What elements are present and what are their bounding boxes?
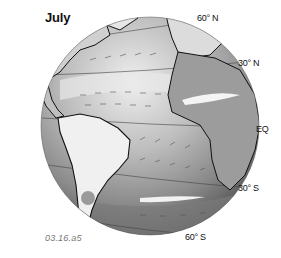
label-30n: 30° N [238,58,259,68]
label-60s: 60° S [185,232,206,242]
globe-map [0,0,281,258]
figure-title: July [45,10,70,25]
label-equator: EQ [256,124,268,134]
figure-caption: 03.16.a5 [45,233,82,243]
label-60n: 60° N [197,13,218,23]
south-america-low [81,191,95,205]
label-30s: 30° S [238,183,259,193]
